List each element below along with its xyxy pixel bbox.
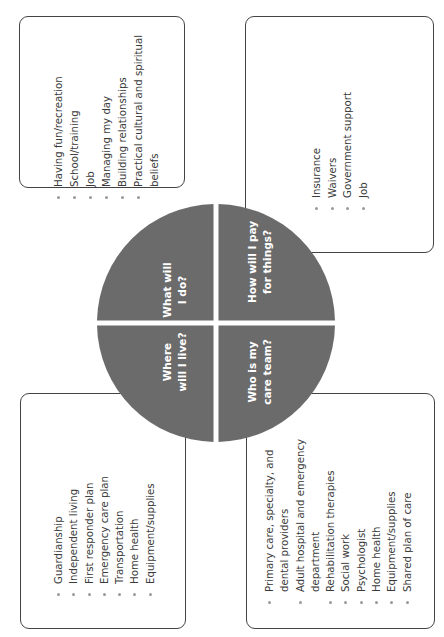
bullet-icon — [105, 196, 108, 199]
list-item: Equipment/supplies — [384, 439, 399, 606]
bullet-icon — [344, 601, 347, 604]
bullet-icon — [360, 601, 363, 604]
list-item: Having fun/recreation — [51, 35, 67, 201]
list-item: Emergency care plan — [97, 476, 112, 598]
label-what-will-i-do: What will I do? — [160, 262, 190, 317]
bullet-icon — [329, 601, 332, 604]
list-item: Equipment/supplies — [143, 476, 158, 598]
list-item: Guardianship — [51, 476, 66, 598]
list-item: Independent living — [66, 476, 81, 598]
quadrant-who-is-my-care-team — [219, 326, 336, 443]
bullet-icon — [121, 196, 124, 199]
list-item: Psychologist — [354, 439, 369, 606]
list-item: Social work — [338, 439, 353, 606]
list-item: School/training — [67, 35, 83, 201]
box-what-will-i-do: Having fun/recreation School/training Jo… — [19, 16, 185, 188]
list-item: Government support — [340, 92, 356, 212]
list-what-will-i-do: Having fun/recreation School/training Jo… — [51, 35, 163, 201]
bullet-icon — [89, 196, 92, 199]
diagram-canvas: Guardianship Independent living First re… — [0, 0, 444, 637]
bullet-icon — [299, 601, 302, 604]
list-item: Primary care, specialty, anddental provi… — [262, 439, 293, 606]
list-item: Shared plan of care — [400, 439, 415, 606]
list-item: Home health — [127, 476, 142, 598]
list-item: Job — [83, 35, 99, 201]
list-item: First responder plan — [82, 476, 97, 598]
list-item: Rehabilitation therapies — [323, 439, 338, 606]
bullet-icon — [57, 196, 60, 199]
list-item: Waivers — [325, 92, 341, 212]
label-where-will-i-live: Where will I live? — [160, 333, 190, 392]
bullet-icon — [73, 196, 76, 199]
list-item: Practical cultural and spiritualbeliefs — [131, 35, 163, 201]
bullet-icon — [149, 593, 152, 596]
list-item: Home health — [369, 439, 384, 606]
list-item: Adult hospital and emergencydepartment — [293, 439, 324, 606]
bullet-icon — [118, 593, 121, 596]
bullet-icon — [137, 196, 140, 199]
bullet-icon — [406, 601, 409, 604]
label-how-will-i-pay: How will I pay for things? — [245, 221, 275, 303]
bullet-icon — [57, 593, 60, 596]
bullet-icon — [362, 207, 365, 210]
list-item: Transportation — [112, 476, 127, 598]
list-item: Building relationships — [115, 35, 131, 201]
list-who-is-my-care-team: Primary care, specialty, anddental provi… — [262, 439, 415, 606]
label-who-is-my-care-team: Who is my care team? — [245, 339, 275, 405]
bullet-icon — [72, 593, 75, 596]
central-circle — [97, 204, 335, 442]
list-item: Managing my day — [99, 35, 115, 201]
bullet-icon — [346, 207, 349, 210]
quadrant-where-will-i-live — [97, 326, 214, 443]
bullet-icon — [390, 601, 393, 604]
bullet-icon — [103, 593, 106, 596]
list-how-will-i-pay: Insurance Waivers Government support Job — [309, 92, 371, 212]
list-where-will-i-live: Guardianship Independent living First re… — [51, 476, 158, 598]
list-item: Insurance — [309, 92, 325, 212]
quadrant-what-will-i-do — [97, 204, 214, 321]
list-item: Job — [356, 92, 372, 212]
bullet-icon — [268, 601, 271, 604]
quadrant-how-will-i-pay — [219, 204, 336, 321]
bullet-icon — [133, 593, 136, 596]
bullet-icon — [375, 601, 378, 604]
bullet-icon — [88, 593, 91, 596]
